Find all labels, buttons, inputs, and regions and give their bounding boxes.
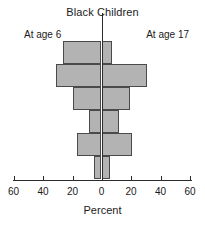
chart-title: Black Children [0, 6, 205, 18]
right-group-label: At age 17 [146, 29, 189, 40]
axis-tick-label: 40 [37, 186, 48, 197]
axis-tick-label: 60 [8, 186, 19, 197]
bar-right-age17 [102, 110, 120, 133]
axis-tick [161, 176, 162, 181]
bar-row [0, 156, 205, 179]
bar-row [0, 41, 205, 64]
bar-left-age6 [94, 156, 101, 179]
center-axis-line [102, 13, 103, 180]
bar-row [0, 87, 205, 110]
axis-tick [73, 176, 74, 181]
bar-left-age6 [63, 41, 102, 64]
bar-left-age6 [56, 64, 102, 87]
bar-right-age17 [102, 64, 148, 87]
x-axis: 6040200204060 [0, 180, 205, 181]
axis-tick-label: 0 [99, 186, 105, 197]
bar-row [0, 64, 205, 87]
bar-row [0, 133, 205, 156]
bar-left-age6 [89, 110, 102, 133]
axis-tick [190, 176, 191, 181]
axis-tick-label: 60 [184, 186, 195, 197]
axis-tick-label: 20 [67, 186, 78, 197]
axis-tick-label: 40 [155, 186, 166, 197]
axis-tick [43, 176, 44, 181]
axis-tick [131, 176, 132, 181]
x-axis-title: Percent [0, 204, 205, 216]
bar-left-age6 [77, 133, 102, 156]
bar-row [0, 110, 205, 133]
axis-tick-label: 20 [125, 186, 136, 197]
axis-tick [14, 176, 15, 181]
bar-left-age6 [73, 87, 101, 110]
plot-area [0, 41, 205, 180]
bar-right-age17 [102, 87, 130, 110]
chart-root: Black Children At age 6 At age 17 604020… [0, 0, 205, 233]
bar-right-age17 [102, 41, 113, 64]
bar-right-age17 [102, 156, 110, 179]
left-group-label: At age 6 [24, 29, 61, 40]
x-axis-line [13, 180, 192, 181]
bar-right-age17 [102, 133, 133, 156]
